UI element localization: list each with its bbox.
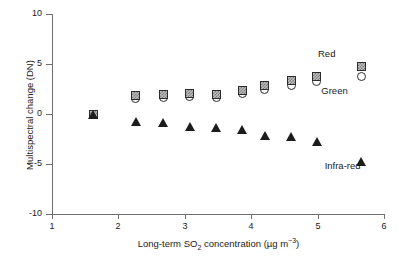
x-tick-label-3: 3 xyxy=(175,222,195,231)
data-point-red xyxy=(287,76,296,85)
x-tick-3 xyxy=(185,214,186,219)
x-tick-label-6: 6 xyxy=(374,222,394,231)
y-tick-5 xyxy=(46,64,52,65)
data-point-infra-red xyxy=(260,131,270,140)
data-point-red xyxy=(357,62,366,71)
x-tick-6 xyxy=(384,214,385,219)
data-point-infra-red xyxy=(356,157,366,166)
data-point-red xyxy=(312,72,321,81)
x-tick-label-4: 4 xyxy=(241,222,261,231)
x-tick-label-5: 5 xyxy=(308,222,328,231)
data-point-red xyxy=(185,89,194,98)
x-axis-line xyxy=(52,214,385,215)
x-axis-title-mid: concentration (µg m xyxy=(201,238,288,249)
data-point-green xyxy=(357,72,366,81)
data-point-infra-red xyxy=(312,137,322,146)
x-tick-label-2: 2 xyxy=(108,222,128,231)
series-label-green: Green xyxy=(321,86,347,96)
data-point-red xyxy=(159,90,168,99)
x-tick-label-1: 1 xyxy=(42,222,62,231)
series-label-infra-red: Infra-red xyxy=(325,161,361,171)
y-tick-0 xyxy=(46,114,52,115)
x-axis-title-sup: −3 xyxy=(288,237,296,244)
x-tick-1 xyxy=(52,214,53,219)
x-axis-title: Long-term SO2 concentration (µg m−3) xyxy=(52,238,385,249)
y-tick-10 xyxy=(46,14,52,15)
y-axis-title: Multispectral change (DN) xyxy=(25,25,35,205)
x-tick-5 xyxy=(318,214,319,219)
data-point-infra-red xyxy=(286,132,296,141)
x-axis-title-pre: Long-term SO xyxy=(138,238,198,249)
data-point-infra-red xyxy=(237,125,247,134)
scatter-plot-area: 10 5 0 -5 -10 1 2 3 4 5 6 Multispectral … xyxy=(0,0,399,270)
chart-figure: 10 5 0 -5 -10 1 2 3 4 5 6 Multispectral … xyxy=(0,0,399,270)
x-tick-4 xyxy=(251,214,252,219)
data-point-red xyxy=(131,91,140,100)
x-tick-2 xyxy=(118,214,119,219)
data-point-infra-red xyxy=(88,110,98,119)
data-point-red xyxy=(212,90,221,99)
y-tick-label-10: 10 xyxy=(12,9,42,18)
data-point-red xyxy=(238,86,247,95)
data-point-infra-red xyxy=(158,118,168,127)
y-axis-line xyxy=(52,14,53,215)
y-tick-label-neg10: -10 xyxy=(12,209,42,218)
data-point-infra-red xyxy=(185,122,195,131)
x-axis-title-post: ) xyxy=(296,238,299,249)
series-label-red: Red xyxy=(318,49,335,59)
y-tick-neg5 xyxy=(46,164,52,165)
data-point-infra-red xyxy=(211,123,221,132)
data-point-infra-red xyxy=(131,117,141,126)
data-point-red xyxy=(260,81,269,90)
